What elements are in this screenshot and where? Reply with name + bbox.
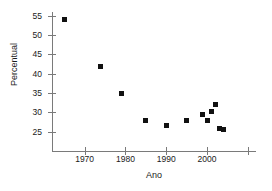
y-tick-label: 50 [22,31,42,40]
y-tick-label: 40 [22,70,42,79]
x-tick-label: 2000 [187,155,227,164]
x-tick-mark [248,147,249,155]
data-point [164,123,169,128]
data-point [62,17,67,22]
data-point [200,112,205,117]
y-tick-mark [48,112,56,113]
y-axis-title: Percentual [10,27,19,103]
data-point [221,127,226,132]
y-tick-label: 35 [22,89,42,98]
plot-area: 25303540455055 1970198019902000 Percentu… [0,0,272,191]
y-tick-mark [48,35,56,36]
y-tick-mark [48,16,56,17]
data-point [143,118,148,123]
x-tick-label: 1990 [146,155,186,164]
y-tick-mark [48,132,56,133]
y-axis-line [52,12,53,151]
y-tick-label: 25 [22,128,42,137]
data-point [119,91,124,96]
data-point [213,102,218,107]
y-tick-label: 55 [22,12,42,21]
y-tick-mark [48,74,56,75]
y-tick-mark [48,93,56,94]
data-point [184,118,189,123]
y-tick-mark [48,54,56,55]
x-tick-label: 1980 [105,155,145,164]
y-tick-label: 30 [22,108,42,117]
x-tick-label: 1970 [65,155,105,164]
data-point [209,109,214,114]
data-point [98,64,103,69]
y-tick-label: 45 [22,50,42,59]
scatter-chart: 25303540455055 1970198019902000 Percentu… [0,0,272,191]
x-axis-title: Ano [52,171,256,180]
data-point [205,118,210,123]
x-axis-line [52,151,256,152]
